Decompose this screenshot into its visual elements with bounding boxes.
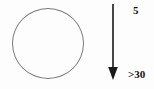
circle-outline-shape	[12, 8, 84, 79]
scale-label-top: 5	[133, 5, 139, 16]
downward-arrow-icon	[104, 2, 122, 82]
scale-label-bottom: >30	[128, 69, 145, 80]
diagram-canvas: 5 >30	[0, 0, 154, 89]
